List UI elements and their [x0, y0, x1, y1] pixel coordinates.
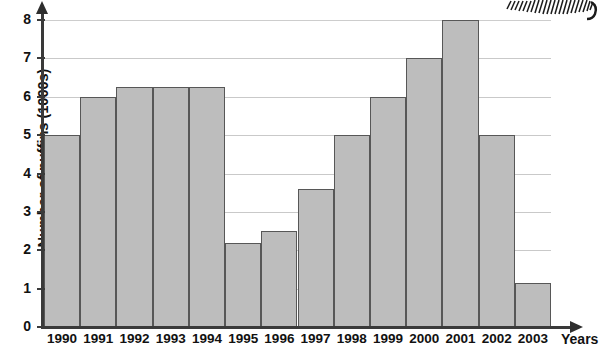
y-tick-mark — [37, 173, 45, 175]
x-tick-label-1994: 1994 — [187, 331, 227, 346]
y-tick-mark — [37, 288, 45, 290]
bar-2000 — [406, 58, 442, 327]
y-tick-label-4: 4 — [0, 165, 31, 181]
y-tick-label-5: 5 — [0, 126, 31, 142]
y-tick-label-6: 6 — [0, 88, 31, 104]
bar-2003 — [515, 283, 551, 327]
x-tick-label-1996: 1996 — [259, 331, 299, 346]
bar-chart: Number of puffins (1000s) 012345678 1990… — [0, 0, 607, 349]
x-tick-label-1992: 1992 — [114, 331, 154, 346]
x-tick-label-1991: 1991 — [78, 331, 118, 346]
bar-1990 — [44, 135, 80, 327]
y-tick-mark — [37, 249, 45, 251]
y-tick-label-0: 0 — [0, 318, 31, 334]
y-tick-mark — [37, 96, 45, 98]
plot-area — [44, 20, 551, 327]
x-tick-label-1993: 1993 — [151, 331, 191, 346]
y-tick-label-7: 7 — [0, 49, 31, 65]
y-tick-label-3: 3 — [0, 203, 31, 219]
x-tick-label-1995: 1995 — [223, 331, 263, 346]
y-tick-mark — [37, 134, 45, 136]
y-axis-arrow-icon — [36, 1, 48, 14]
y-tick-mark — [37, 211, 45, 213]
x-axis-title: Years — [561, 331, 598, 347]
bar-1995 — [225, 243, 261, 327]
y-tick-label-8: 8 — [0, 11, 31, 27]
x-tick-label-2002: 2002 — [477, 331, 517, 346]
x-tick-label-2003: 2003 — [513, 331, 553, 346]
bar-1994 — [189, 87, 225, 327]
y-tick-mark — [37, 19, 45, 21]
x-axis-line — [41, 326, 574, 329]
x-tick-label-2001: 2001 — [440, 331, 480, 346]
y-tick-label-2: 2 — [0, 241, 31, 257]
x-tick-label-1998: 1998 — [332, 331, 372, 346]
x-tick-label-1990: 1990 — [42, 331, 82, 346]
bar-1997 — [298, 189, 334, 327]
bar-2001 — [442, 20, 478, 327]
y-axis-line — [41, 12, 44, 329]
y-tick-label-1: 1 — [0, 280, 31, 296]
x-tick-label-1999: 1999 — [368, 331, 408, 346]
bar-1992 — [116, 87, 152, 327]
x-tick-label-1997: 1997 — [296, 331, 336, 346]
y-tick-mark — [37, 57, 45, 59]
bar-2002 — [479, 135, 515, 327]
bar-1999 — [370, 97, 406, 327]
bar-1991 — [80, 97, 116, 327]
bar-1993 — [153, 87, 189, 327]
x-tick-label-2000: 2000 — [404, 331, 444, 346]
bar-1996 — [261, 231, 297, 327]
bar-1998 — [334, 135, 370, 327]
